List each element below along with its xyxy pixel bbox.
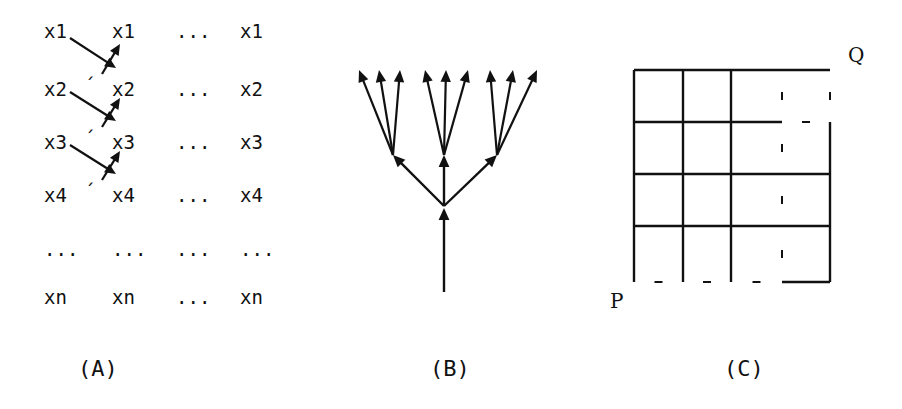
- cell-r5-c3: xn: [240, 288, 263, 307]
- cell-r2-c1: x3: [112, 133, 135, 152]
- panel-c-caption: (C): [724, 358, 764, 380]
- grid-start-label-p: P: [610, 291, 623, 311]
- cell-r2-c0: x3: [44, 133, 67, 152]
- prime-mark-r2: ´: [84, 129, 95, 148]
- leaf-4-shaft: [444, 77, 446, 155]
- trunk-head-icon: [439, 208, 450, 220]
- panel-a: x1x1...x1x2x2...x2´x3x3...x3´x4x4...x4´.…: [0, 0, 300, 409]
- leaf-6-shaft: [491, 77, 497, 155]
- leaf-1-head-icon: [376, 70, 386, 83]
- cell-r5-c2: ...: [176, 288, 210, 307]
- branch-0-shaft: [398, 160, 444, 206]
- cell-r5-c0: xn: [44, 288, 67, 307]
- leaf-2-shaft: [393, 77, 399, 155]
- cell-r0-c2: ...: [176, 22, 210, 41]
- cell-r0-c3: x1: [240, 22, 263, 41]
- panel-a-caption: (A): [78, 358, 118, 380]
- cell-r3-c3: x4: [240, 186, 263, 205]
- leaf-3-shaft: [426, 76, 444, 155]
- panel-b-tree: [300, 0, 590, 409]
- cell-r4-c2: ...: [176, 240, 210, 259]
- branch-1-head-icon: [439, 155, 450, 167]
- leaf-5-head-icon: [460, 70, 470, 83]
- branch-2-shaft: [444, 160, 492, 206]
- prime-mark-r1: ´: [84, 76, 95, 95]
- cell-r4-c1: ...: [112, 240, 146, 259]
- cell-r3-c2: ...: [176, 186, 210, 205]
- grid-end-label-q: Q: [848, 45, 864, 65]
- prime-mark-r3: ´: [84, 182, 95, 201]
- cell-r1-c2: ...: [176, 80, 210, 99]
- leaf-7-shaft: [497, 76, 512, 155]
- cell-r1-c1: x2: [112, 80, 135, 99]
- figure-root: x1x1...x1x2x2...x2´x3x3...x3´x4x4...x4´.…: [0, 0, 902, 409]
- cell-r2-c3: x3: [240, 133, 263, 152]
- leaf-7-head-icon: [506, 70, 516, 83]
- cell-r3-c0: x4: [44, 186, 67, 205]
- cell-r1-c3: x2: [240, 80, 263, 99]
- leaf-8-shaft: [497, 76, 534, 155]
- leaf-1-shaft: [380, 77, 393, 155]
- transition-arrow-0-shaft: [70, 38, 111, 65]
- cell-r2-c2: ...: [176, 133, 210, 152]
- cell-r0-c1: x1: [112, 22, 135, 41]
- leaf-6-head-icon: [486, 70, 496, 82]
- cell-r0-c0: x1: [44, 22, 67, 41]
- cell-r4-c3: ...: [240, 240, 274, 259]
- leaf-4-head-icon: [441, 70, 451, 82]
- panel-b: (B): [300, 0, 590, 409]
- leaf-5-shaft: [444, 76, 466, 155]
- panel-b-caption: (B): [430, 358, 470, 380]
- leaf-0-head-icon: [359, 70, 369, 83]
- panel-c: P Q (C): [590, 0, 902, 409]
- leaf-3-head-icon: [423, 70, 433, 83]
- leaf-2-head-icon: [394, 70, 404, 82]
- leaf-0-shaft: [361, 76, 393, 155]
- cell-r3-c1: x4: [112, 186, 135, 205]
- cell-r4-c0: ...: [44, 240, 78, 259]
- cell-r1-c0: x2: [44, 80, 67, 99]
- cell-r5-c1: xn: [112, 288, 135, 307]
